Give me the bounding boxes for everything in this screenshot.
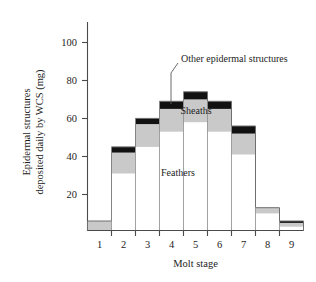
- x-tick-label-3: 3: [145, 239, 150, 250]
- y-tick-label-20: 20: [67, 189, 78, 200]
- bar-stage-6: [208, 101, 232, 230]
- annotation-other-epidermal-structures: Other epidermal structures: [181, 53, 288, 64]
- bar-stage-7-other: [232, 126, 256, 134]
- bar-stage-9-feathers: [280, 227, 304, 231]
- x-tick-label-5: 5: [193, 239, 198, 250]
- bar-stage-3: [136, 118, 160, 230]
- y-axis-title-line1: Epidermal structures: [21, 88, 32, 175]
- y-tick-label-100: 100: [61, 37, 77, 48]
- y-tick-label-60: 60: [67, 113, 78, 124]
- x-tick-label-4: 4: [169, 239, 175, 250]
- x-tick-label-9: 9: [289, 239, 294, 250]
- annotation-feathers: Feathers: [161, 167, 195, 178]
- bar-stage-1-sheaths: [88, 221, 112, 231]
- x-axis-title: Molt stage: [173, 258, 218, 269]
- annotation-sheaths: Sheaths: [180, 105, 211, 116]
- bar-stage-9-sheaths: [280, 223, 304, 227]
- y-tick-label-40: 40: [67, 151, 78, 162]
- x-tick-label-2: 2: [121, 239, 126, 250]
- x-tick-label-8: 8: [265, 239, 270, 250]
- x-tick-label-7: 7: [241, 239, 246, 250]
- bar-stage-9: [280, 221, 304, 231]
- bar-stage-2-sheaths: [112, 153, 136, 174]
- bar-stage-3-feathers: [136, 147, 160, 231]
- bar-stage-4-feathers: [160, 132, 184, 231]
- bar-stage-5-other: [184, 92, 208, 100]
- x-tick-label-6: 6: [217, 239, 222, 250]
- bar-stage-3-sheaths: [136, 124, 160, 147]
- bar-stage-2: [112, 147, 136, 231]
- chart-figure: 100 80 60 40 20 Epidermal structures dep…: [0, 0, 316, 282]
- bar-stage-7-feathers: [232, 155, 256, 231]
- y-axis-title-line2: deposited daily by WCS (mg): [34, 69, 46, 195]
- bar-stage-2-feathers: [112, 174, 136, 231]
- bar-stage-2-other: [112, 147, 136, 153]
- bar-stage-4: [160, 101, 184, 230]
- bar-stage-8: [256, 208, 280, 231]
- x-tick-label-1: 1: [97, 239, 102, 250]
- bar-stage-8-sheaths: [256, 208, 280, 214]
- y-tick-label-80: 80: [67, 75, 78, 86]
- bar-stage-8-feathers: [256, 213, 280, 230]
- bar-stage-3-other: [136, 118, 160, 124]
- bar-stage-1: [88, 221, 112, 231]
- bar-stage-6-feathers: [208, 132, 232, 231]
- epidermal-structures-stacked-bar-chart: 100 80 60 40 20 Epidermal structures dep…: [0, 0, 316, 282]
- bar-stage-7: [232, 126, 256, 231]
- bar-stage-7-sheaths: [232, 134, 256, 155]
